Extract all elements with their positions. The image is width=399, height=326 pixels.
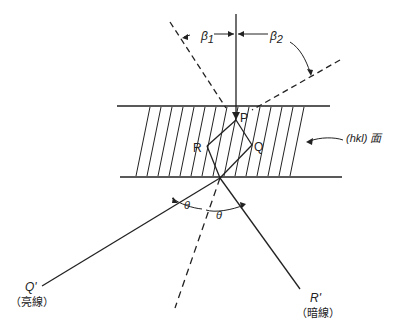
hkl-plane-label: (hkl) 面 <box>346 133 381 144</box>
theta-left-label: θ <box>184 200 190 211</box>
lattice-planes-hatching <box>136 107 304 176</box>
point-q-label: Q <box>254 141 263 153</box>
q-prime-label: Q' <box>25 281 37 293</box>
ray-p-r <box>207 120 236 146</box>
beta1-label: β1 <box>201 30 214 45</box>
r-prime-label: R' <box>310 292 321 304</box>
beam-r-prime <box>220 178 300 289</box>
diffraction-diagram <box>0 0 399 326</box>
point-p-label: P <box>240 112 248 124</box>
theta-right-arc <box>206 205 244 211</box>
theta-right-label: θ <box>216 210 222 221</box>
incident-arrowhead <box>232 112 240 120</box>
dashed-normal-upper <box>170 22 226 108</box>
dashed-line-lower <box>175 178 220 308</box>
beam-q-prime <box>42 178 220 286</box>
q-prime-caption: （亮線） <box>10 297 54 308</box>
dashed-diffracted-upper <box>252 60 340 110</box>
hkl-pointer <box>310 138 343 141</box>
point-r-label: R <box>193 142 202 154</box>
r-prime-caption: （暗線） <box>296 308 340 319</box>
beta2-label: β2 <box>270 30 283 45</box>
beta2-curve-arrow <box>290 42 310 72</box>
